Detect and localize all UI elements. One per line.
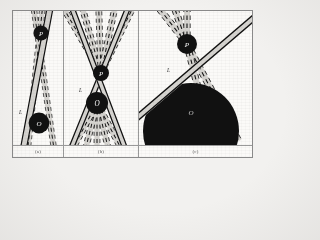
- line-label-L: L: [79, 87, 82, 93]
- panel-a-caption: (a): [13, 146, 63, 157]
- panel-b: P O L (b): [64, 11, 138, 157]
- body-O: O: [86, 92, 108, 114]
- panel-b-caption: (b): [64, 146, 138, 157]
- line-label-L: L: [19, 109, 22, 115]
- panel-c: O P L (c): [139, 11, 252, 157]
- figure-frame: P O L (a): [12, 10, 253, 158]
- body-P: P: [33, 25, 48, 40]
- line-label-L: L: [167, 67, 170, 73]
- body-P-label: P: [98, 70, 103, 77]
- panel-c-plot: O P L: [139, 11, 252, 146]
- panel-a-plot: P O L: [13, 11, 63, 146]
- body-O: O: [143, 83, 239, 146]
- body-O-label: O: [36, 120, 41, 128]
- body-P-label: P: [184, 41, 190, 49]
- body-O: O: [29, 113, 50, 134]
- body-O-label: O: [188, 109, 193, 117]
- panel-b-plot: P O L: [64, 11, 138, 146]
- body-P-label: P: [38, 30, 43, 37]
- panel-c-caption: (c): [139, 146, 252, 157]
- body-O-label: O: [94, 100, 100, 108]
- body-P: P: [93, 65, 109, 81]
- panel-a-diagram: P O: [13, 11, 63, 146]
- panel-a: P O L (a): [13, 11, 63, 157]
- panel-b-diagram: P O: [64, 11, 138, 146]
- panel-c-diagram: O P: [139, 11, 252, 146]
- body-P: P: [177, 34, 197, 54]
